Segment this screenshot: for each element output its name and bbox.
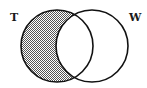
venn-diagram: T W [0,0,147,88]
set-label-w: W [129,12,141,23]
venn-svg [0,0,147,88]
set-label-t: T [10,12,18,23]
